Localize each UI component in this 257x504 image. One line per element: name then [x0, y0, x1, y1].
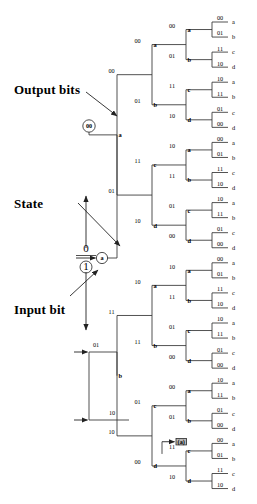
leaf-state-16: a	[232, 259, 235, 266]
d1-branch-up-7: 11	[169, 443, 175, 450]
d1-branch-up-0: 00	[169, 22, 175, 29]
root-node-a: a	[119, 131, 123, 138]
annotation-arrow-state	[78, 203, 120, 246]
leaf-state-28: a	[232, 440, 235, 447]
state-circle-text: a	[100, 254, 103, 261]
leaf-output-23: 00	[217, 361, 223, 368]
d1-branch-dn-7: 10	[169, 473, 175, 480]
d1-branch-up-1: 11	[169, 82, 175, 89]
leaf-state-3: d	[232, 63, 236, 70]
d2-state-1: b	[188, 56, 192, 63]
d1-branch-dn-1: 10	[169, 112, 175, 119]
leaf-state-26: c	[232, 410, 235, 417]
figure-canvas: a00b01c11d10a10b11c01d00a00b01c11d10a10b…	[0, 0, 257, 504]
d0-branch-up-3: 01	[134, 398, 140, 405]
d1-branch-dn-2: 11	[169, 172, 175, 179]
leaf-output-1: 01	[217, 29, 223, 36]
d2-state-5: b	[188, 176, 192, 183]
leaf-output-31: 10	[217, 481, 223, 488]
leaf-output-6: 01	[217, 105, 223, 112]
d2-state-10: c	[188, 327, 191, 334]
leaf-output-21: 11	[217, 330, 223, 337]
root-b-dn-out: 10	[108, 428, 114, 435]
leaf-output-9: 01	[217, 150, 223, 157]
trunk-lower-out: 01	[93, 341, 99, 348]
leaf-state-7: d	[232, 124, 236, 131]
leaf-output-25: 11	[217, 391, 223, 398]
leaf-output-13: 11	[217, 210, 223, 217]
leaf-state-5: b	[232, 93, 235, 100]
d0-branch-dn-0: 01	[134, 97, 140, 104]
leaf-state-24: a	[232, 379, 235, 386]
leaf-output-18: 11	[217, 285, 223, 292]
leaf-output-28: 00	[217, 436, 223, 443]
d1-branch-dn-6: 01	[169, 413, 175, 420]
root-node-b: b	[119, 372, 123, 379]
leaf-output-12: 10	[217, 195, 223, 202]
root-b-up-out: 11	[109, 308, 115, 315]
leaf-output-16: 00	[217, 255, 223, 262]
leaf-state-25: b	[232, 394, 235, 401]
leaf-output-24: 10	[217, 376, 223, 383]
d1-branch-up-3: 01	[169, 202, 175, 209]
d1-state-1: b	[154, 101, 158, 108]
d0-branch-up-2: 10	[134, 278, 140, 285]
leaf-output-20: 10	[217, 315, 223, 322]
d1-branch-dn-0: 01	[169, 52, 175, 59]
d0-branch-dn-2: 11	[135, 338, 141, 345]
root-up-out: 00	[108, 67, 114, 74]
tree-edges	[76, 22, 228, 489]
d1-branch-up-6: 00	[169, 383, 175, 390]
leaf-output-0: 00	[217, 14, 223, 21]
d2-state-11: d	[188, 357, 192, 364]
leaf-output-15: 00	[217, 240, 223, 247]
d1-state-3: d	[154, 222, 158, 229]
d1-branch-dn-5: 00	[169, 353, 175, 360]
leaf-output-8: 00	[217, 135, 223, 142]
d0-branch-up-1: 11	[135, 157, 141, 164]
leaf-state-13: b	[232, 214, 235, 221]
annotation-input-bit: Input bit	[14, 302, 65, 318]
d2-state-6: c	[188, 207, 191, 214]
leaf-state-2: c	[232, 48, 235, 55]
leaf-output-5: 11	[217, 90, 223, 97]
d1-state-7: d	[154, 462, 158, 469]
leaf-state-30: c	[232, 470, 235, 477]
leaf-state-6: c	[232, 109, 235, 116]
leaf-output-30: 11	[217, 466, 223, 473]
leaf-state-19: d	[232, 304, 236, 311]
leaf-state-29: b	[232, 455, 235, 462]
d2-state-14: c	[188, 447, 191, 454]
annotation-arrow-output-bits	[86, 92, 117, 116]
leaf-output-14: 01	[217, 225, 223, 232]
leaf-output-3: 10	[217, 60, 223, 67]
d2-state-9: b	[188, 297, 192, 304]
leaf-state-17: b	[232, 274, 235, 281]
leaf-output-4: 10	[217, 75, 223, 82]
d1-state-6: c	[154, 402, 157, 409]
d1-branch-dn-4: 11	[169, 293, 175, 300]
leaf-state-18: c	[232, 289, 235, 296]
input-bit-zero: 0	[83, 242, 89, 254]
d1-branch-dn-3: 00	[169, 232, 175, 239]
annotation-arrow-input-bit	[70, 270, 98, 296]
d2-state-13: b	[188, 417, 192, 424]
leaf-state-9: b	[232, 154, 235, 161]
d1-branch-up-2: 10	[169, 142, 175, 149]
leaf-output-7: 00	[217, 120, 223, 127]
leaf-state-4: a	[232, 78, 235, 85]
leaf-state-22: c	[232, 349, 235, 356]
d0-branch-dn-1: 10	[134, 217, 140, 224]
leaf-output-10: 11	[217, 165, 223, 172]
leaf-state-14: c	[232, 229, 235, 236]
leaf-state-23: d	[232, 364, 236, 371]
d1-state-5: b	[154, 342, 158, 349]
leaf-output-11: 10	[217, 180, 223, 187]
leaf-output-22: 01	[217, 346, 223, 353]
leaf-state-31: d	[232, 485, 236, 492]
leaf-state-21: b	[232, 334, 235, 341]
code-tree-svg: a00b01c11d10a10b11c01d00a00b01c11d10a10b…	[0, 0, 257, 504]
annotation-state: State	[14, 196, 43, 212]
leaf-output-19: 10	[217, 300, 223, 307]
leaf-output-29: 01	[217, 451, 223, 458]
